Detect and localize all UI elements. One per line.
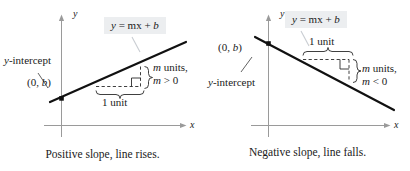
panel-caption: Negative slope, line falls. [205, 146, 410, 158]
panel-negative-slope: y x y = mx + b (0, b) y-intercept 1 unit… [205, 0, 410, 171]
equation-label: y = mx + b [104, 17, 166, 34]
rise-run-dashes-positive [96, 67, 141, 87]
slope-figure: y x y = mx + b y-intercept (0, b) 1 unit… [0, 0, 410, 171]
y-axis-arrow [266, 15, 271, 22]
run-label: 1 unit [102, 96, 127, 108]
y-intercept-point [59, 96, 64, 101]
rise-label-line-2: m < 0 [362, 75, 397, 88]
equation-label-box: y = mx + b [285, 13, 347, 25]
equation-label-box: y = mx + b [104, 19, 166, 31]
y-axis-label: y [73, 8, 77, 19]
y-intercept-label: y-intercept [4, 54, 51, 66]
y-intercept-point [266, 41, 271, 46]
intercept-leader-line [241, 57, 252, 72]
y-intercept-label: y-intercept [208, 76, 255, 88]
x-axis-label: x [190, 119, 194, 130]
y-axis-arrow [59, 15, 64, 22]
rise-label: m units, m < 0 [362, 62, 397, 89]
rise-label-line-1: m units, [153, 61, 188, 74]
rise-brace [145, 67, 153, 89]
rise-label-line-1: m units, [362, 62, 397, 75]
right-angle-marker [132, 78, 141, 87]
x-axis-arrow [384, 123, 391, 128]
panel-positive-slope: y x y = mx + b y-intercept (0, b) 1 unit… [0, 0, 205, 171]
run-brace [303, 48, 353, 56]
panel-caption: Positive slope, line rises. [0, 148, 205, 160]
rise-brace [353, 60, 361, 83]
rise-run-dashes-negative [303, 60, 349, 83]
x-axis-label: x [394, 119, 398, 130]
x-axis-arrow [180, 123, 187, 128]
right-angle-marker [340, 60, 349, 70]
intercept-point-label: (0, b) [27, 76, 51, 88]
equation-label: y = mx + b [285, 11, 347, 28]
intercept-point-label: (0, b) [218, 41, 242, 53]
run-label: 1 unit [309, 35, 334, 47]
equation-leader-line [301, 31, 309, 46]
equation-leader-line [132, 37, 140, 52]
y-axis-label: y [280, 8, 284, 19]
rise-label-line-2: m > 0 [153, 74, 188, 87]
rise-label: m units, m > 0 [153, 61, 188, 88]
